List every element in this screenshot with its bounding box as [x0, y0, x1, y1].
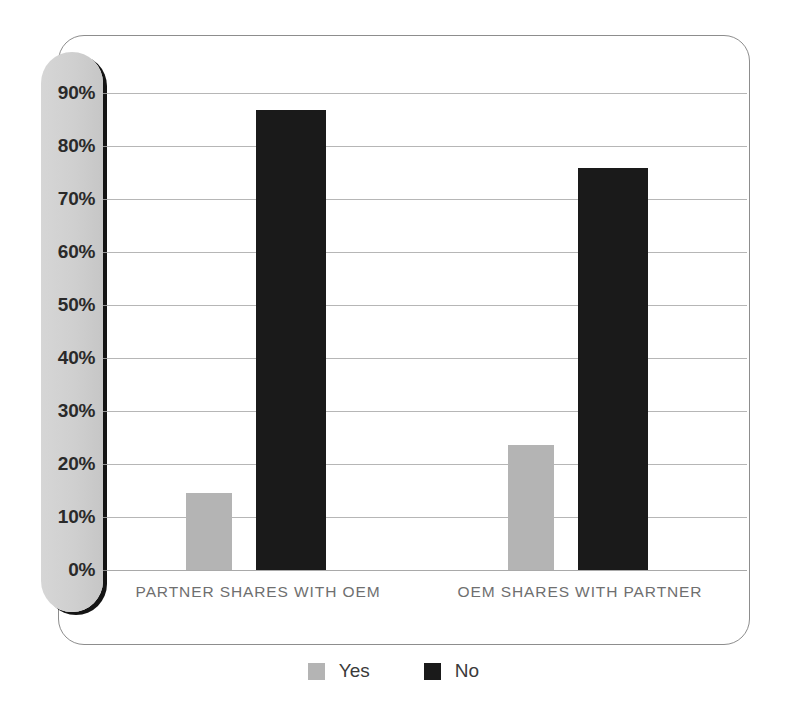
legend-label: No — [455, 660, 479, 682]
chart-legend: YesNo — [0, 660, 787, 682]
bar-no-group-1 — [256, 110, 326, 570]
legend-swatch-yes-icon — [308, 663, 325, 680]
y-axis-tick-label: 90% — [58, 82, 95, 104]
gridline-40 — [103, 358, 747, 359]
y-axis-tick-label: 60% — [58, 241, 95, 263]
gridline-50 — [103, 305, 747, 306]
gridline-70 — [103, 199, 747, 200]
y-axis-tick-label: 40% — [58, 347, 95, 369]
y-axis-tick-label: 70% — [58, 188, 95, 210]
legend-item-yes[interactable]: Yes — [308, 660, 370, 682]
y-axis-tick-label: 30% — [58, 400, 95, 422]
bar-yes-group-1 — [186, 493, 232, 570]
legend-item-no[interactable]: No — [424, 660, 479, 682]
chart-container: 0%10%20%30%40%50%60%70%80%90% PARTNER SH… — [0, 0, 787, 724]
bar-yes-group-2 — [508, 445, 554, 570]
bar-no-group-2 — [578, 168, 648, 570]
y-axis-tick-label: 50% — [58, 294, 95, 316]
x-axis-category-label: OEM SHARES WITH PARTNER — [458, 583, 703, 601]
y-axis-tick-label: 80% — [58, 135, 95, 157]
legend-label: Yes — [339, 660, 370, 682]
y-axis-panel: 0%10%20%30%40%50%60%70%80%90% — [41, 52, 103, 612]
gridline-20 — [103, 464, 747, 465]
plot-area — [103, 93, 747, 570]
y-axis-tick-label: 0% — [68, 559, 95, 581]
gridline-30 — [103, 411, 747, 412]
y-axis-tick-label: 10% — [58, 506, 95, 528]
gridline-60 — [103, 252, 747, 253]
gridline-80 — [103, 146, 747, 147]
gridline-90 — [103, 93, 747, 94]
x-axis-category-label: PARTNER SHARES WITH OEM — [136, 583, 381, 601]
y-axis-tick-label: 20% — [58, 453, 95, 475]
gridline-0 — [103, 570, 747, 571]
x-axis-category-labels: PARTNER SHARES WITH OEMOEM SHARES WITH P… — [103, 583, 747, 611]
legend-swatch-no-icon — [424, 663, 441, 680]
